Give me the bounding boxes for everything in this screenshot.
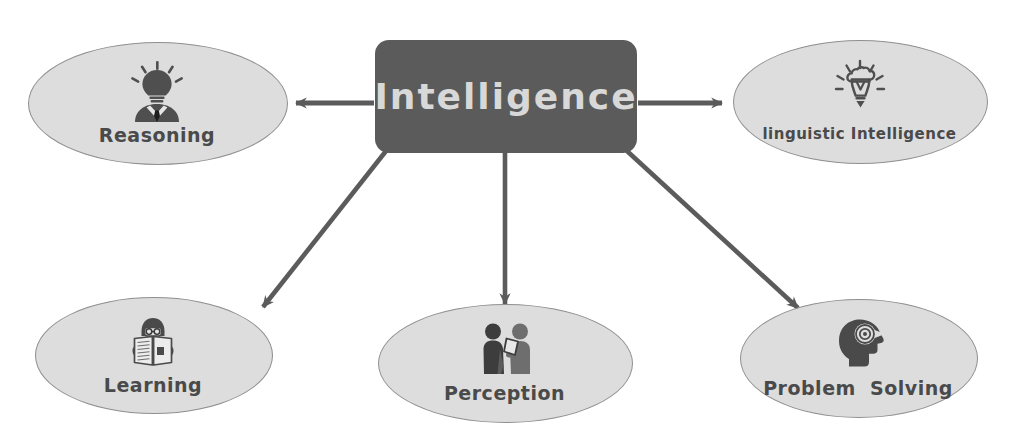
edge-intelligence-learning — [263, 151, 386, 307]
lightbulb-outline-icon — [829, 59, 891, 121]
edge-intelligence-problem — [627, 151, 798, 308]
two-people-document-icon — [470, 322, 540, 380]
head-profile-lightbulb-icon — [825, 317, 891, 375]
node-linguistic-label: linguistic Intelligence — [762, 125, 956, 143]
node-problem-solving-label: Problem Solving — [763, 377, 953, 399]
diagram-canvas: Intelligence — [0, 0, 1018, 441]
node-learning[interactable]: Learning — [35, 297, 271, 412]
node-perception-label: Perception — [444, 382, 565, 404]
person-reading-book-icon — [124, 314, 182, 372]
node-problem-solving[interactable]: Problem Solving — [740, 299, 976, 416]
node-perception[interactable]: Perception — [378, 304, 631, 421]
node-reasoning-label: Reasoning — [99, 124, 215, 146]
node-reasoning[interactable]: Reasoning — [28, 42, 286, 163]
node-learning-label: Learning — [104, 374, 202, 396]
center-node-intelligence[interactable]: Intelligence — [375, 40, 637, 153]
center-node-label: Intelligence — [374, 76, 637, 117]
lightbulb-head-person-icon — [126, 60, 188, 122]
node-linguistic-intelligence[interactable]: linguistic Intelligence — [733, 40, 986, 162]
